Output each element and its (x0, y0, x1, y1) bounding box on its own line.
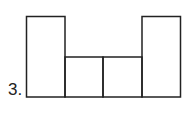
left-tall-rect (27, 17, 66, 98)
figure (0, 0, 187, 129)
right-tall-rect (142, 17, 181, 98)
middle-left-square (65, 57, 103, 97)
middle-right-square (103, 57, 142, 97)
